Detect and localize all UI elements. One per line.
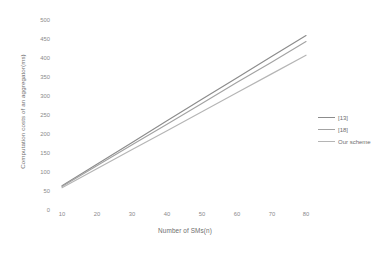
- x-tick-label: 40: [155, 211, 179, 217]
- x-tick-label: 50: [190, 211, 214, 217]
- x-tick-label: 60: [225, 211, 249, 217]
- computation-cost-line-chart: Computation costs of an aggregator(ms) 5…: [0, 0, 382, 256]
- x-tick-label: 80: [294, 211, 318, 217]
- legend-label: [13]: [338, 115, 348, 121]
- series-lines: [62, 36, 306, 188]
- series-line-18: [62, 42, 306, 187]
- x-axis-title: Number of SMs(n): [60, 227, 310, 234]
- x-tick-label: 20: [85, 211, 109, 217]
- x-axis-tick-labels: 10 20 30 40 50 60 70 80: [0, 211, 382, 223]
- legend-line-swatch-icon: [318, 141, 335, 142]
- series-line-13: [62, 36, 306, 186]
- legend-item-13[interactable]: [13]: [318, 112, 380, 123]
- x-tick-label: 70: [260, 211, 284, 217]
- legend-line-swatch-icon: [318, 117, 335, 118]
- legend-label: [18]: [338, 127, 348, 133]
- legend-line-swatch-icon: [318, 129, 335, 130]
- chart-legend: [13] [18] Our scheme: [318, 112, 380, 148]
- legend-item-our-scheme[interactable]: Our scheme: [318, 136, 380, 147]
- series-line-our-scheme: [62, 55, 306, 187]
- x-tick-label: 30: [120, 211, 144, 217]
- legend-label: Our scheme: [338, 139, 371, 145]
- legend-item-18[interactable]: [18]: [318, 124, 380, 135]
- x-tick-label: 10: [50, 211, 74, 217]
